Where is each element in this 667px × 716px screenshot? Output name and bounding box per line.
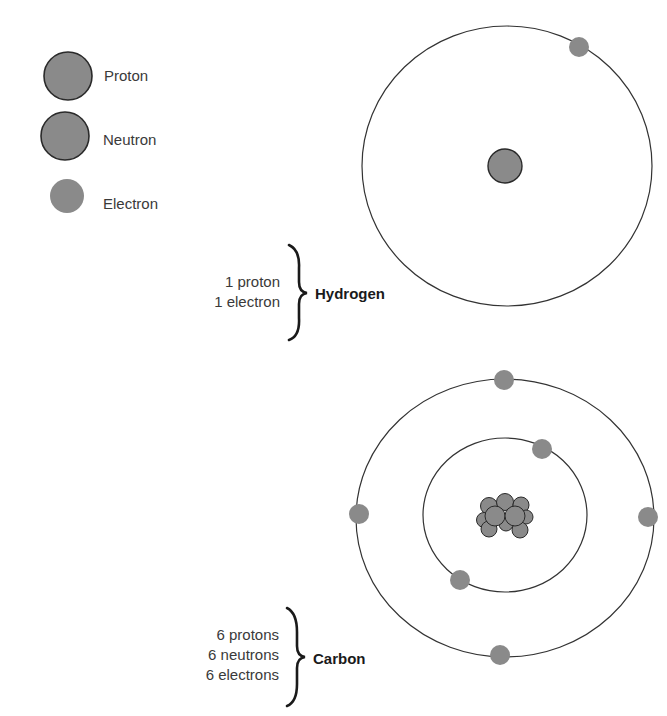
hydrogen-label: Hydrogen [315, 285, 385, 302]
hydrogen-electron [569, 37, 589, 57]
hydrogen-electron-count: 1 electron [214, 292, 280, 312]
hydrogen-counts: 1 proton 1 electron [214, 272, 280, 312]
legend-label-proton: Proton [104, 67, 148, 84]
carbon-brace [287, 608, 305, 706]
hydrogen-nucleus-proton [488, 149, 522, 183]
hydrogen-atom [362, 26, 652, 306]
carbon-counts: 6 protons 6 neutrons 6 electrons [206, 625, 279, 685]
hydrogen-brace [289, 245, 307, 340]
hydrogen-proton-count: 1 proton [214, 272, 280, 292]
carbon-electron-count: 6 electrons [206, 665, 279, 685]
carbon-nucleus [477, 494, 534, 539]
carbon-electron [638, 507, 658, 527]
carbon-electron [349, 504, 369, 524]
legend-label-electron: Electron [103, 195, 158, 212]
carbon-neutron-count: 6 neutrons [206, 645, 279, 665]
proton-legend-icon [44, 52, 92, 100]
carbon-proton-count: 6 protons [206, 625, 279, 645]
carbon-electron [494, 370, 514, 390]
carbon-electron [490, 645, 510, 665]
carbon-label: Carbon [313, 650, 366, 667]
electron-legend-icon [50, 179, 84, 213]
carbon-electron [532, 439, 552, 459]
carbon-electron [450, 570, 470, 590]
carbon-atom [349, 370, 658, 665]
legend-label-neutron: Neutron [103, 131, 156, 148]
atom-diagram [0, 0, 667, 716]
neutron-legend-icon [41, 112, 89, 160]
